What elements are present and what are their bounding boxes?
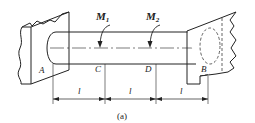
- torque-m2-arrow: [148, 25, 161, 48]
- torque-m1-arrow: [98, 25, 111, 48]
- segment-ac-length: l: [78, 86, 81, 96]
- figure-caption: (a): [117, 111, 127, 121]
- segment-cd-length: l: [129, 86, 132, 96]
- point-a-label: A: [38, 65, 45, 75]
- dimension-extension-lines: [53, 64, 208, 104]
- point-d-label: D: [144, 64, 152, 74]
- right-fixed-support: [187, 12, 236, 84]
- point-b-label: B: [201, 64, 207, 74]
- segment-db-length: l: [180, 86, 183, 96]
- dimension-lines: [53, 97, 208, 101]
- torque-m1-label: M1: [95, 10, 109, 24]
- torque-m2-label: M2: [145, 10, 160, 24]
- shaft: [47, 32, 200, 64]
- point-c-label: C: [95, 64, 102, 74]
- shaft-diagram: M1 M2 A C D B l l l (a): [0, 0, 255, 123]
